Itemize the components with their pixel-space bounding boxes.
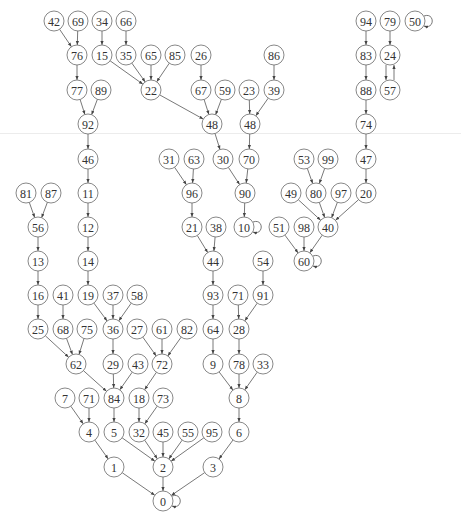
graph-node-62: 62 <box>66 354 86 374</box>
graph-node-2: 2 <box>153 457 173 477</box>
edge-arrow <box>246 169 248 183</box>
node-label: 71 <box>83 392 95 406</box>
node-label: 61 <box>156 323 168 337</box>
node-label: 27 <box>131 323 143 337</box>
edge-arrow <box>95 440 108 459</box>
edge-arrow <box>42 202 48 217</box>
graph-node-48: 48 <box>240 114 260 134</box>
node-label: 78 <box>233 358 245 372</box>
node-label: 85 <box>169 49 181 63</box>
graph-node-27: 27 <box>127 319 147 339</box>
graph-node-13: 13 <box>28 251 48 271</box>
graph-node-8: 8 <box>229 388 249 408</box>
node-label: 35 <box>120 49 132 63</box>
node-label: 8 <box>236 392 242 406</box>
node-label: 20 <box>360 187 372 201</box>
graph-node-45: 45 <box>153 422 173 442</box>
graph-node-99: 99 <box>318 149 338 169</box>
node-label: 40 <box>322 221 334 235</box>
graph-node-40: 40 <box>318 217 338 237</box>
edge-arrow <box>307 168 312 183</box>
edge-arrow <box>132 63 145 82</box>
graph-node-36: 36 <box>103 319 123 339</box>
graph-node-31: 31 <box>159 149 179 169</box>
node-label: 47 <box>360 153 372 167</box>
graph-node-54: 54 <box>253 251 273 271</box>
graph-node-47: 47 <box>356 149 376 169</box>
node-label: 48 <box>206 118 218 132</box>
graph-node-97: 97 <box>331 183 351 203</box>
graph-node-95: 95 <box>202 422 222 442</box>
graph-node-96: 96 <box>182 183 202 203</box>
graph-node-7: 7 <box>55 388 75 408</box>
node-label: 22 <box>145 84 157 98</box>
edge-arrow <box>216 99 222 114</box>
graph-node-25: 25 <box>28 319 48 339</box>
edge-arrow <box>319 168 324 183</box>
graph-node-24: 24 <box>380 45 400 65</box>
graph-node-59: 59 <box>215 80 235 100</box>
node-label: 65 <box>145 49 157 63</box>
node-label: 92 <box>82 118 94 132</box>
graph-node-5: 5 <box>104 422 124 442</box>
graph-node-65: 65 <box>141 45 161 65</box>
node-label: 57 <box>384 84 396 98</box>
graph-node-88: 88 <box>356 80 376 100</box>
edge-arrow <box>219 372 233 390</box>
graph-node-63: 63 <box>184 149 204 169</box>
graph-node-23: 23 <box>239 80 259 100</box>
node-label: 53 <box>298 153 310 167</box>
node-label: 58 <box>131 289 143 303</box>
node-label: 29 <box>107 358 119 372</box>
graph-node-92: 92 <box>78 114 98 134</box>
node-label: 39 <box>268 84 280 98</box>
graph-node-6: 6 <box>229 422 249 442</box>
graph-node-39: 39 <box>264 80 284 100</box>
node-label: 81 <box>20 187 32 201</box>
node-label: 55 <box>182 426 194 440</box>
node-label: 41 <box>57 289 69 303</box>
edge-arrow <box>245 372 257 390</box>
graph-canvas: 4269346694795076153565852686832477892267… <box>0 0 461 519</box>
edge-arrow <box>120 372 132 390</box>
node-label: 75 <box>81 323 93 337</box>
graph-node-71: 71 <box>79 388 99 408</box>
graph-node-74: 74 <box>356 114 376 134</box>
node-label: 97 <box>335 187 347 201</box>
edge-arrow <box>204 100 209 115</box>
graph-node-22: 22 <box>141 80 161 100</box>
node-label: 14 <box>82 255 94 269</box>
node-label: 19 <box>82 289 94 303</box>
node-label: 24 <box>384 49 396 63</box>
graph-node-71: 71 <box>228 285 248 305</box>
graph-node-1: 1 <box>104 457 124 477</box>
graph-node-37: 37 <box>103 285 123 305</box>
graph-node-67: 67 <box>191 80 211 100</box>
graph-node-26: 26 <box>191 45 211 65</box>
node-label: 45 <box>157 426 169 440</box>
graph-node-34: 34 <box>92 11 112 31</box>
graph-node-32: 32 <box>129 422 149 442</box>
node-label: 16 <box>32 289 44 303</box>
graph-node-72: 72 <box>152 354 172 374</box>
node-label: 26 <box>195 49 207 63</box>
edge-arrow <box>80 100 85 115</box>
edge-arrow <box>310 235 322 253</box>
graph-node-20: 20 <box>356 183 376 203</box>
node-label: 77 <box>71 84 83 98</box>
edge-arrow <box>145 440 158 459</box>
graph-node-55: 55 <box>178 422 198 442</box>
graph-node-70: 70 <box>239 149 259 169</box>
graph-node-66: 66 <box>116 11 136 31</box>
node-label: 23 <box>243 84 255 98</box>
edge-arrow <box>219 440 233 459</box>
node-label: 96 <box>186 187 198 201</box>
node-label: 95 <box>206 426 218 440</box>
node-label: 0 <box>160 495 166 509</box>
node-label: 66 <box>120 15 132 29</box>
node-label: 43 <box>132 358 144 372</box>
edge-arrow <box>332 202 338 217</box>
edge-arrow <box>122 473 155 496</box>
edge-arrow <box>214 237 215 251</box>
edge-arrow <box>143 337 156 356</box>
